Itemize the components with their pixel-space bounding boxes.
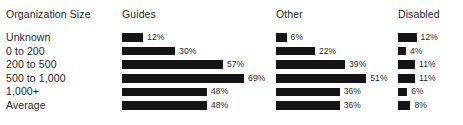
bar-value-guides: 30%: [179, 45, 196, 59]
bar-disabled: [398, 101, 410, 110]
bar-value-other: 51%: [370, 72, 387, 86]
chart-row: 200 to 50057%39%11%: [0, 58, 463, 72]
bar-disabled: [398, 33, 417, 42]
bar-value-guides: 69%: [248, 72, 265, 86]
bar-disabled: [398, 88, 407, 97]
bar-value-disabled: 6%: [411, 85, 424, 99]
bar-value-disabled: 12%: [421, 31, 438, 45]
chart-row: 0 to 20030%22%4%: [0, 45, 463, 59]
bar-guides: [122, 74, 244, 83]
bar-value-guides: 48%: [211, 99, 228, 113]
chart-row: 500 to 1,00069%51%11%: [0, 72, 463, 86]
row-label-unknown: Unknown: [6, 31, 50, 45]
row-label-average: Average: [6, 99, 46, 113]
chart-row: Unknown12%6%12%: [0, 31, 463, 45]
column-header-other: Other: [276, 8, 303, 20]
bar-value-other: 39%: [349, 58, 366, 72]
chart-rows: Unknown12%6%12%0 to 20030%22%4%200 to 50…: [0, 31, 463, 113]
bar-value-disabled: 8%: [414, 99, 427, 113]
bar-value-disabled: 11%: [419, 72, 436, 86]
bar-value-guides: 12%: [147, 31, 164, 45]
column-header-organization-size: Organization Size: [6, 8, 91, 20]
bar-disabled: [398, 60, 415, 69]
bar-guides: [122, 60, 223, 69]
row-label-1-000: 1,000+: [6, 85, 39, 99]
chart-row: Average48%36%8%: [0, 99, 463, 113]
bar-disabled: [398, 74, 415, 83]
row-label-0-to-200: 0 to 200: [6, 45, 45, 59]
bar-disabled: [398, 47, 406, 56]
bar-other: [276, 74, 366, 83]
bar-other: [276, 101, 340, 110]
row-label-200-to-500: 200 to 500: [6, 58, 57, 72]
bar-value-guides: 57%: [227, 58, 244, 72]
chart-row: 1,000+48%36%6%: [0, 85, 463, 99]
bar-value-other: 36%: [344, 85, 361, 99]
bar-value-other: 22%: [319, 45, 336, 59]
bar-value-other: 6%: [291, 31, 304, 45]
bar-other: [276, 33, 287, 42]
bar-guides: [122, 47, 175, 56]
bar-value-disabled: 4%: [410, 45, 423, 59]
bar-guides: [122, 33, 143, 42]
bar-other: [276, 88, 340, 97]
bar-other: [276, 47, 315, 56]
column-header-disabled: Disabled: [398, 8, 440, 20]
organization-size-bar-chart: Organization Size Guides Other Disabled …: [0, 0, 463, 125]
bar-guides: [122, 101, 207, 110]
bar-other: [276, 60, 345, 69]
bar-guides: [122, 88, 207, 97]
chart-header-row: Organization Size Guides Other Disabled: [0, 8, 463, 24]
bar-value-disabled: 11%: [419, 58, 436, 72]
column-header-guides: Guides: [122, 8, 156, 20]
row-label-500-to-1-000: 500 to 1,000: [6, 72, 66, 86]
bar-value-guides: 48%: [211, 85, 228, 99]
bar-value-other: 36%: [344, 99, 361, 113]
